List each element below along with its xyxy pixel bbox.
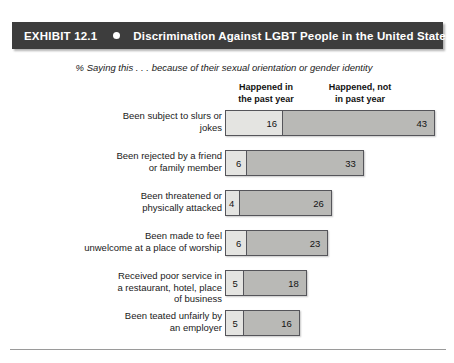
bar-value-not-past-year: 18 bbox=[288, 278, 299, 289]
bar-segment-past-year: 6 bbox=[225, 230, 246, 256]
bottom-divider bbox=[10, 349, 446, 350]
row-label-line2: an employer bbox=[42, 322, 222, 334]
chart-legend: Happened in the past year Happened, not … bbox=[0, 82, 454, 110]
bar-value-past-year: 4 bbox=[229, 198, 234, 209]
legend-item-happened-past-year: Happened in the past year bbox=[224, 82, 308, 105]
bar-value-past-year: 6 bbox=[236, 158, 241, 169]
chart-plot-area: Been subject to slurs or jokes 16 43 Bee… bbox=[0, 110, 454, 350]
bullet-dot-icon bbox=[113, 32, 120, 39]
chart-row: Been threatened or physically attacked 4… bbox=[0, 190, 454, 230]
stacked-bar: 4 26 bbox=[225, 190, 332, 216]
bar-segment-not-past-year: 18 bbox=[243, 270, 307, 296]
exhibit-number-label: EXHIBIT 12.1 bbox=[24, 30, 97, 42]
legend-label-line1: Happened, not bbox=[312, 82, 408, 94]
chart-subtitle: % Saying this . . . because of their sex… bbox=[0, 62, 448, 73]
row-label-line3: of business bbox=[42, 293, 222, 305]
row-label-line1: Been subject to slurs or bbox=[42, 110, 222, 122]
chart-row: Been rejected by a friend or family memb… bbox=[0, 150, 454, 190]
row-label-line2: a restaurant, hotel, place bbox=[42, 282, 222, 294]
bar-segment-not-past-year: 16 bbox=[243, 310, 300, 336]
stacked-bar: 5 18 bbox=[225, 270, 307, 296]
bar-segment-past-year: 5 bbox=[225, 310, 243, 336]
stacked-bar: 16 43 bbox=[225, 110, 435, 136]
stacked-bar: 6 23 bbox=[225, 230, 328, 256]
row-category-label: Received poor service in a restaurant, h… bbox=[42, 270, 222, 305]
legend-item-happened-not-past-year: Happened, not in past year bbox=[312, 82, 408, 105]
bar-value-not-past-year: 26 bbox=[313, 198, 324, 209]
row-label-line2: physically attacked bbox=[42, 202, 222, 214]
bar-value-not-past-year: 33 bbox=[345, 158, 356, 169]
bar-segment-not-past-year: 33 bbox=[246, 150, 363, 176]
bar-value-past-year: 5 bbox=[233, 318, 238, 329]
exhibit-banner: EXHIBIT 12.1 Discrimination Against LGBT… bbox=[12, 22, 443, 49]
bar-value-not-past-year: 23 bbox=[310, 238, 321, 249]
row-label-line1: Been teated unfairly by bbox=[42, 310, 222, 322]
bar-segment-not-past-year: 43 bbox=[282, 110, 435, 136]
row-category-label: Been subject to slurs or jokes bbox=[42, 110, 222, 133]
bar-segment-past-year: 16 bbox=[225, 110, 282, 136]
chart-row: Been teated unfairly by an employer 5 16 bbox=[0, 310, 454, 350]
legend-label-line2: the past year bbox=[224, 94, 308, 106]
exhibit-title: Discrimination Against LGBT People in th… bbox=[133, 30, 452, 42]
row-label-line1: Received poor service in bbox=[42, 270, 222, 282]
row-label-line2: unwelcome at a place of worship bbox=[42, 242, 222, 254]
row-category-label: Been rejected by a friend or family memb… bbox=[42, 150, 222, 173]
row-label-line1: Been made to feel bbox=[42, 230, 222, 242]
row-category-label: Been teated unfairly by an employer bbox=[42, 310, 222, 333]
stacked-bar: 6 33 bbox=[225, 150, 364, 176]
row-label-line2: jokes bbox=[42, 122, 222, 134]
bar-segment-not-past-year: 26 bbox=[239, 190, 332, 216]
legend-label-line1: Happened in bbox=[224, 82, 308, 94]
chart-row: Been subject to slurs or jokes 16 43 bbox=[0, 110, 454, 150]
bar-value-not-past-year: 43 bbox=[416, 118, 427, 129]
bar-value-past-year: 16 bbox=[266, 118, 277, 129]
row-label-line1: Been threatened or bbox=[42, 190, 222, 202]
row-label-line1: Been rejected by a friend bbox=[42, 150, 222, 162]
bar-value-past-year: 6 bbox=[236, 238, 241, 249]
bar-segment-past-year: 5 bbox=[225, 270, 243, 296]
chart-row: Received poor service in a restaurant, h… bbox=[0, 270, 454, 310]
legend-label-line2: in past year bbox=[312, 94, 408, 106]
stacked-bar: 5 16 bbox=[225, 310, 300, 336]
row-category-label: Been made to feel unwelcome at a place o… bbox=[42, 230, 222, 253]
row-label-line2: or family member bbox=[42, 162, 222, 174]
row-category-label: Been threatened or physically attacked bbox=[42, 190, 222, 213]
bar-segment-not-past-year: 23 bbox=[246, 230, 328, 256]
bar-value-past-year: 5 bbox=[233, 278, 238, 289]
bar-value-not-past-year: 16 bbox=[281, 318, 292, 329]
bar-segment-past-year: 6 bbox=[225, 150, 246, 176]
bar-segment-past-year: 4 bbox=[225, 190, 239, 216]
chart-row: Been made to feel unwelcome at a place o… bbox=[0, 230, 454, 270]
